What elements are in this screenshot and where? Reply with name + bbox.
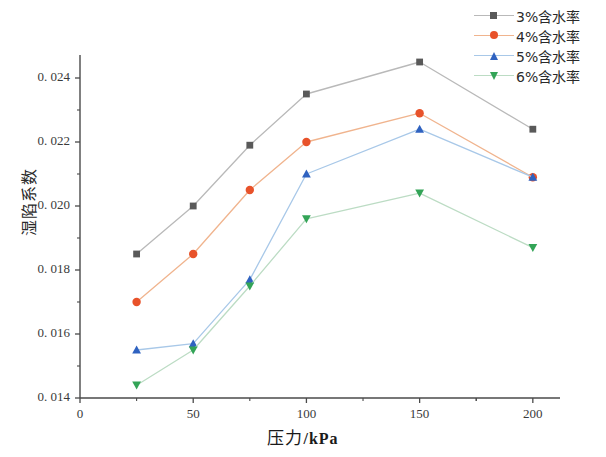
legend-item-label: 3%含水率 — [516, 6, 580, 26]
legend-sample-triangle-up-icon — [474, 49, 514, 63]
data-point-marker — [133, 251, 140, 258]
legend-sample-square-icon — [474, 9, 514, 23]
legend-marker-square-icon — [490, 12, 497, 19]
x-axis-tick-label: 150 — [395, 406, 445, 422]
y-axis-tick-label: 0. 014 — [4, 389, 70, 405]
x-axis-title-text: 压力 — [267, 428, 303, 448]
legend-marker-shape — [490, 72, 498, 80]
data-point-marker — [302, 138, 310, 146]
series-line — [137, 62, 533, 254]
legend-item-label: 4%含水率 — [516, 26, 580, 46]
data-point-marker — [189, 250, 197, 258]
data-point-marker — [416, 59, 423, 66]
legend-marker-triangle-up-icon — [490, 52, 498, 60]
data-point-marker — [415, 125, 424, 133]
legend-marker-triangle-down-icon — [490, 72, 498, 80]
data-point-marker — [132, 298, 140, 306]
y-axis-tick-label: 0. 024 — [4, 69, 70, 85]
data-point-marker — [246, 142, 253, 149]
legend: 3%含水率4%含水率5%含水率6%含水率 — [474, 6, 606, 86]
data-point-marker — [189, 346, 198, 354]
legend-marker-shape — [490, 31, 498, 39]
legend-item-1[interactable]: 3%含水率 — [474, 6, 606, 26]
data-point-marker — [529, 126, 536, 133]
data-point-marker — [246, 186, 254, 194]
legend-item-2[interactable]: 4%含水率 — [474, 26, 606, 46]
y-axis-tick-label: 0. 018 — [4, 261, 70, 277]
series-1 — [133, 59, 536, 258]
y-axis-tick-label: 0. 016 — [4, 325, 70, 341]
series-line — [137, 129, 533, 350]
y-axis-title: 湿陷系数 — [16, 142, 40, 262]
legend-item-label: 5%含水率 — [516, 46, 580, 66]
siltiness-coefficient-chart: 0. 0140. 0160. 0180. 0200. 0220. 024 050… — [0, 0, 606, 457]
legend-item-label: 6%含水率 — [516, 66, 580, 86]
x-axis-title-unit: /kPa — [303, 430, 338, 447]
series-3 — [132, 125, 537, 354]
legend-marker-circle-icon — [490, 31, 498, 39]
legend-item-3[interactable]: 5%含水率 — [474, 46, 606, 66]
legend-marker-shape — [490, 12, 497, 19]
legend-sample-triangle-down-icon — [474, 69, 514, 83]
data-point-marker — [132, 382, 141, 390]
series-4 — [132, 190, 537, 390]
legend-sample-circle-icon — [474, 29, 514, 43]
data-point-marker — [528, 244, 537, 252]
data-point-marker — [415, 109, 423, 117]
series-line — [137, 193, 533, 385]
legend-marker-shape — [490, 52, 498, 60]
legend-item-4[interactable]: 6%含水率 — [474, 66, 606, 86]
data-point-marker — [302, 170, 311, 178]
x-axis-tick-label: 200 — [508, 406, 558, 422]
x-axis-tick-label: 0 — [55, 406, 105, 422]
x-axis-title: 压力/kPa — [0, 424, 606, 449]
x-axis-tick-label: 100 — [281, 406, 331, 422]
x-axis-tick-label: 50 — [168, 406, 218, 422]
data-point-marker — [303, 91, 310, 98]
data-point-marker — [190, 203, 197, 210]
